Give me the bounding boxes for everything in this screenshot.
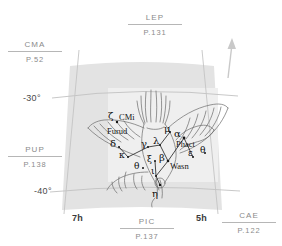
neighbor-abbr-lep: LEP: [128, 12, 182, 24]
neighbor-page-lep: P.131: [128, 26, 182, 38]
star-label-alpha: α: [174, 128, 181, 139]
star-label-theta-right: θ: [200, 145, 205, 155]
label-rule: [128, 24, 182, 25]
neighbor-abbr-cma: CMA: [8, 39, 62, 51]
star-label-beta: β: [159, 152, 165, 163]
neighbor-abbr-pup: PUP: [8, 144, 62, 156]
ra-tick-7h: 7h: [72, 213, 83, 223]
neighbor-label-pic[interactable]: PIC P.137: [120, 216, 174, 242]
star-label-delta: δ: [110, 138, 116, 149]
star-label-theta-left: θ: [134, 161, 139, 171]
neighbor-page-cma: P.52: [8, 53, 62, 65]
north-arrow-icon: [228, 38, 237, 78]
neighbor-page-pup: P.138: [8, 158, 62, 170]
neighbor-label-cae[interactable]: CAE P.122: [222, 210, 276, 236]
neighbor-abbr-cae: CAE: [222, 210, 276, 222]
star-label-mu: μ: [164, 123, 171, 134]
star-label-epsilon: ε: [188, 148, 193, 158]
star-label-lambda: λ: [153, 135, 159, 146]
label-rule: [8, 51, 62, 52]
star-label-gamma: γ: [141, 138, 147, 149]
label-rule: [8, 156, 62, 157]
label-rule: [222, 222, 276, 223]
label-rule: [120, 228, 174, 229]
neighbor-label-lep[interactable]: LEP P.131: [128, 12, 182, 38]
star-label-zeta: ζ: [108, 110, 113, 121]
star-label-wasn: Wasn: [170, 161, 189, 171]
star-label-cmi: CMi: [119, 112, 135, 122]
star-dot-theta-left: [142, 167, 144, 169]
neighbor-abbr-pic: PIC: [120, 216, 174, 228]
dec-tick-minus30: -30°: [23, 93, 41, 103]
star-label-xi: ξ: [147, 154, 152, 164]
star-label-furud: Furud: [107, 126, 127, 136]
ra-tick-5h: 5h: [196, 213, 207, 223]
star-dot-furud: [116, 121, 118, 123]
neighbor-label-pup[interactable]: PUP P.138: [8, 144, 62, 170]
neighbor-label-cma[interactable]: CMA P.52: [8, 39, 62, 65]
star-label-eta: η: [152, 188, 158, 199]
neighbor-page-pic: P.137: [120, 230, 174, 242]
neighbor-page-cae: P.122: [222, 224, 276, 236]
star-chart-page: LEP P.131 CMA P.52 PUP P.138 PIC P.137 C…: [0, 0, 282, 246]
dec-tick-minus40: -40°: [34, 186, 52, 196]
star-label-iota: ι: [151, 166, 155, 176]
star-label-kappa: κ: [119, 150, 125, 160]
